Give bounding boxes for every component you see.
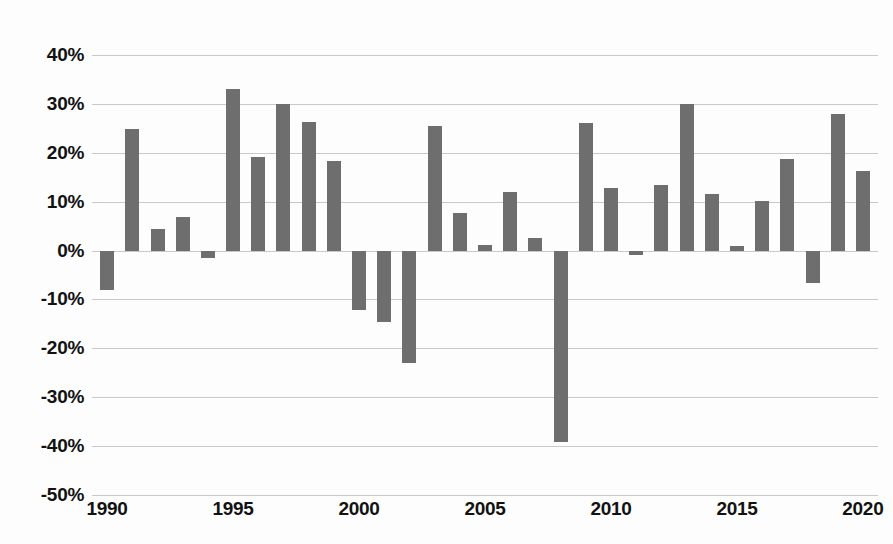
x-axis-tick-label: 2010 — [590, 498, 631, 520]
gridline — [92, 153, 878, 154]
y-axis-tick-label: 20% — [18, 142, 84, 164]
x-axis-tick-label: 1990 — [87, 498, 128, 520]
y-axis-tick-label: -10% — [18, 288, 84, 310]
y-axis-tick-label: -20% — [18, 337, 84, 359]
bar — [856, 171, 870, 250]
bar — [554, 251, 568, 443]
bar — [327, 161, 341, 250]
y-axis-tick-label: -40% — [18, 435, 84, 457]
bar — [528, 238, 542, 250]
gridline — [92, 446, 878, 447]
bar — [302, 122, 316, 250]
bar — [100, 251, 114, 290]
bar — [831, 114, 845, 250]
bar — [428, 126, 442, 250]
bar — [730, 246, 744, 250]
bar — [780, 159, 794, 251]
x-axis-tick-label: 2015 — [716, 498, 757, 520]
gridline — [92, 299, 878, 300]
bar-chart: 40%30%20%10%0%-10%-20%-30%-40%-50% 19901… — [0, 0, 893, 544]
bar — [276, 104, 290, 250]
bar — [654, 185, 668, 251]
bar — [478, 245, 492, 251]
bar — [453, 213, 467, 251]
y-axis-tick-label: -50% — [18, 484, 84, 506]
x-axis-tick-label: 2020 — [842, 498, 883, 520]
bar — [680, 104, 694, 250]
bar — [755, 201, 769, 251]
plot-area — [92, 55, 878, 495]
bar — [151, 229, 165, 251]
y-axis-tick-label: 40% — [18, 44, 84, 66]
gridline — [92, 495, 878, 496]
x-axis-tick-label: 1995 — [213, 498, 254, 520]
bar — [201, 251, 215, 258]
x-axis-tick-label: 2000 — [338, 498, 379, 520]
y-axis-tick-label: 10% — [18, 191, 84, 213]
bar — [402, 251, 416, 363]
y-axis-tick-label: 0% — [18, 240, 84, 262]
x-axis-tick-label: 2005 — [464, 498, 505, 520]
gridline — [92, 348, 878, 349]
bar — [806, 251, 820, 284]
bar — [629, 251, 643, 256]
y-axis-tick-label: -30% — [18, 386, 84, 408]
bar — [503, 192, 517, 250]
gridline — [92, 55, 878, 56]
bar — [125, 129, 139, 250]
bar — [176, 217, 190, 251]
bar — [705, 194, 719, 251]
bar — [377, 251, 391, 322]
bar — [251, 157, 265, 250]
gridline — [92, 397, 878, 398]
bar — [579, 123, 593, 250]
gridline — [92, 104, 878, 105]
bar — [352, 251, 366, 310]
bar — [226, 89, 240, 251]
bar — [604, 188, 618, 251]
y-axis-tick-label: 30% — [18, 93, 84, 115]
